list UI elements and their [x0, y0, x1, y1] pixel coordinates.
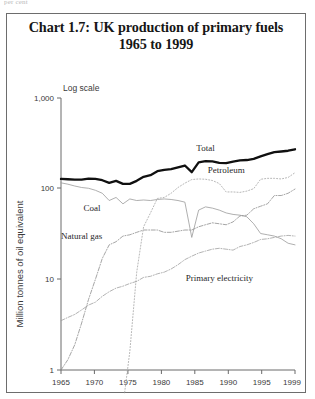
- y-axis-tick-labels: 1,000 100 10 1: [34, 94, 55, 375]
- series-label-total: Total: [196, 143, 215, 153]
- series-line-natural-gas: [61, 189, 295, 370]
- y-tick-label: 10: [45, 275, 54, 284]
- x-tick-label: 1990: [219, 378, 237, 387]
- series-label-primary-electricity: Primary electricity: [186, 273, 254, 283]
- chart-plot-svg: Million tonnes of oil equivalent Log sca…: [7, 14, 307, 394]
- y-tick-label: 100: [41, 184, 55, 193]
- plot-area: Million tonnes of oil equivalent Log sca…: [7, 14, 307, 394]
- x-tick-label: 1995: [253, 378, 271, 387]
- x-tick-label: 1970: [86, 378, 104, 387]
- series-label-natural-gas: Natural gas: [61, 231, 103, 241]
- x-axis-ticks: [61, 370, 295, 374]
- series-label-petroleum: Petroleum: [208, 165, 245, 175]
- x-tick-label: 1985: [186, 378, 204, 387]
- log-scale-note: Log scale: [63, 83, 100, 93]
- y-tick-label: 1: [50, 366, 55, 375]
- chart-figure-frame: Chart 1.7: UK production of primary fuel…: [6, 13, 306, 393]
- x-tick-label: 1975: [119, 378, 137, 387]
- y-tick-label: 1,000: [34, 94, 55, 103]
- x-tick-label: 1980: [153, 378, 171, 387]
- series-line-total: [61, 149, 295, 184]
- y-axis-title: Million tonnes of oil equivalent: [14, 200, 25, 327]
- x-axis-tick-labels: 1965 1970 1975 1980 1985 1990 1995 1999: [52, 378, 301, 387]
- series-label-coal: Coal: [84, 203, 101, 213]
- data-series-group: [61, 149, 295, 394]
- x-tick-label: 1999: [283, 378, 301, 387]
- clipped-text-above-figure: per cent: [4, 0, 28, 6]
- x-tick-label: 1965: [52, 378, 70, 387]
